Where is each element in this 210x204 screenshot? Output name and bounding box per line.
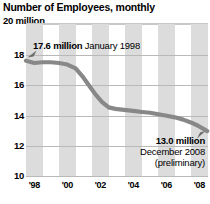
series-line-employees — [26, 61, 207, 131]
end-annotation-value: 13.0 million — [140, 135, 205, 146]
end-annotation-period: December 2008 — [140, 146, 205, 157]
end-annotation-note: (preliminary) — [140, 157, 205, 168]
end-annotation: 13.0 million December 2008 (preliminary) — [140, 135, 205, 168]
series-layer — [0, 0, 210, 204]
start-annotation: 17.6 million January 1998 — [33, 40, 140, 51]
start-annotation-period: January 1998 — [85, 40, 140, 51]
chart-figure: Number of Employees, monthly 20 million … — [0, 0, 210, 204]
start-annotation-arrow-icon — [28, 51, 37, 58]
start-annotation-value: 17.6 million — [33, 40, 82, 51]
